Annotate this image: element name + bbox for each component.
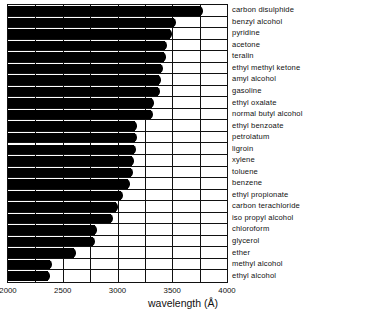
category-label: benzene <box>232 178 262 187</box>
category-label: glycerol <box>232 236 259 245</box>
bar-cap <box>150 98 154 108</box>
category-labels: carbon disulphidebenzyl alcoholpyridinea… <box>232 4 372 283</box>
bar <box>8 98 152 108</box>
category-label: pyridine <box>232 28 260 37</box>
bar-cap <box>133 133 137 143</box>
bar-cap <box>156 87 160 97</box>
bar-cap <box>109 214 113 224</box>
uv-transmission-chart: carbon disulphidebenzyl alcoholpyridinea… <box>0 0 374 314</box>
bar-cap <box>132 145 136 155</box>
table-row <box>8 178 227 190</box>
bar <box>8 237 93 247</box>
bar-cap <box>168 29 172 39</box>
category-label: ligroin <box>232 144 253 153</box>
bar <box>8 145 134 155</box>
bar <box>8 18 174 28</box>
table-row <box>8 270 227 282</box>
bar <box>8 271 48 281</box>
category-label: teralin <box>232 51 254 60</box>
bar <box>8 179 128 189</box>
category-label: carbon disulphide <box>232 5 294 14</box>
table-row <box>8 120 227 132</box>
bar-cap <box>149 110 153 120</box>
table-row <box>8 74 227 86</box>
bar-cap <box>126 179 130 189</box>
table-row <box>8 17 227 29</box>
category-label: petrolatum <box>232 132 269 141</box>
category-label: amyl alcohol <box>232 74 276 83</box>
table-row <box>8 40 227 52</box>
table-row <box>8 97 227 109</box>
x-tick-label: 3000 <box>109 286 126 295</box>
bar <box>8 64 161 74</box>
table-row <box>8 190 227 202</box>
bar <box>8 41 165 51</box>
bar-cap <box>199 6 203 16</box>
bar-cap <box>163 41 167 51</box>
plot-area <box>7 4 228 283</box>
bar <box>8 225 95 235</box>
table-row <box>8 259 227 271</box>
bar-cap <box>172 18 176 28</box>
x-tick-label: 3500 <box>164 286 181 295</box>
bar <box>8 156 132 166</box>
bar <box>8 133 135 143</box>
bar-cap <box>48 260 52 270</box>
table-row <box>8 5 227 17</box>
x-tick-label: 2500 <box>54 286 71 295</box>
table-row <box>8 224 227 236</box>
bar-cap <box>133 121 137 131</box>
bar-cap <box>72 248 76 258</box>
table-row <box>8 213 227 225</box>
bar <box>8 75 159 85</box>
x-tick-label: 4000 <box>218 286 235 295</box>
category-label: acetone <box>232 40 260 49</box>
category-label: normal butyl alcohol <box>232 109 303 118</box>
bar <box>8 110 151 120</box>
category-label: carbon terachloride <box>232 201 300 210</box>
category-label: xylene <box>232 155 255 164</box>
table-row <box>8 201 227 213</box>
category-label: ethyl propionate <box>232 190 288 199</box>
bar-cap <box>162 52 166 62</box>
table-row <box>8 132 227 144</box>
category-label: toluene <box>232 167 258 176</box>
x-tick-label: 2000 <box>0 286 17 295</box>
table-row <box>8 247 227 259</box>
bar <box>8 29 170 39</box>
bar-cap <box>130 156 134 166</box>
bar <box>8 214 111 224</box>
bar <box>8 191 121 201</box>
table-row <box>8 51 227 63</box>
category-label: ethyl methyl ketone <box>232 63 300 72</box>
bar <box>8 52 164 62</box>
table-row <box>8 236 227 248</box>
table-row <box>8 63 227 75</box>
category-label: ethyl oxalate <box>232 98 277 107</box>
bar-cap <box>114 202 118 212</box>
bar <box>8 260 50 270</box>
bar-cap <box>119 191 123 201</box>
x-axis-title: wavelength (Å) <box>148 297 218 309</box>
bar-cap <box>159 64 163 74</box>
table-row <box>8 109 227 121</box>
bar <box>8 248 74 258</box>
category-label: ethyl benzoate <box>232 121 284 130</box>
category-label: iso propyl alcohol <box>232 213 293 222</box>
bar-cap <box>93 225 97 235</box>
bar <box>8 168 131 178</box>
table-row <box>8 155 227 167</box>
table-row <box>8 144 227 156</box>
bar-cap <box>46 271 50 281</box>
category-label: benzyl alcohol <box>232 17 282 26</box>
category-label: chloroform <box>232 224 269 233</box>
category-label: ethyl alcohol <box>232 271 276 280</box>
table-row <box>8 86 227 98</box>
category-label: methyl alcohol <box>232 259 283 268</box>
table-row <box>8 28 227 40</box>
category-label: ether <box>232 248 250 257</box>
bar <box>8 87 158 97</box>
table-row <box>8 167 227 179</box>
bar <box>8 121 135 131</box>
bar-cap <box>129 168 133 178</box>
